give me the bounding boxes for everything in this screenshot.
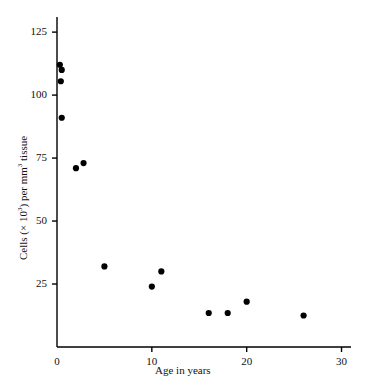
plot-canvas [0,0,376,387]
scatter-plot-figure: 2550751001250102030 Cells (× 103) per mm… [0,0,376,387]
x-tick-label-20: 20 [241,355,252,367]
data-points-group [57,62,307,319]
y-axis-label: Cells (× 103) per mm3 tissue [16,136,29,260]
data-point [149,283,155,289]
y-tick-label-75: 75 [36,151,47,163]
x-tick-label-30: 30 [336,355,347,367]
data-point [225,310,231,316]
data-point [206,310,212,316]
data-point [244,299,250,305]
y-tick-label-125: 125 [31,25,48,37]
data-point [101,263,107,269]
x-axis-label: Age in years [155,364,211,376]
data-point [59,115,65,121]
data-point [300,312,306,318]
y-tick-label-100: 100 [31,88,48,100]
data-point [80,160,86,166]
x-tick-label-0: 0 [54,355,60,367]
data-point [73,165,79,171]
data-point [58,78,64,84]
data-point [59,67,65,73]
data-point [158,268,164,274]
y-tick-label-50: 50 [36,214,47,226]
y-tick-label-25: 25 [36,277,47,289]
axes-group [52,17,351,352]
